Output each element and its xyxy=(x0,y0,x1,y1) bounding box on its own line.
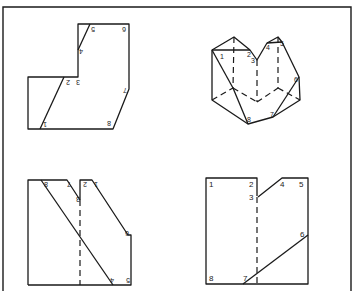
vertex-label: 8 xyxy=(44,181,48,188)
panel-top-left-net: 1 2 3 4 5 6 7 8 xyxy=(28,24,129,129)
panel-bottom-left-net: 8 7 3 2 1 6 4 5 xyxy=(28,180,131,285)
vertex-label: 1 xyxy=(94,181,98,188)
vertex-label: 5 xyxy=(126,277,130,284)
vertex-label: 8 xyxy=(247,116,251,123)
vertex-label: 7 xyxy=(123,87,127,94)
vertex-label: 4 xyxy=(79,48,83,55)
vertex-label: 7 xyxy=(67,181,71,188)
vertex-label: 6 xyxy=(300,230,305,239)
vertex-label: 6 xyxy=(125,230,129,237)
vertex-label: 4 xyxy=(280,180,285,189)
vertex-label: 6 xyxy=(122,26,126,33)
vertex-label: 8 xyxy=(107,120,111,127)
vertex-label: 1 xyxy=(220,53,224,60)
vertex-label: 2 xyxy=(249,180,254,189)
vertex-label: 1 xyxy=(209,180,214,189)
vertex-label: 3 xyxy=(251,57,255,64)
figure-frame xyxy=(3,7,351,291)
vertex-label: 5 xyxy=(299,180,304,189)
panel-bottom-right-net: 1 2 3 4 5 6 7 8 xyxy=(206,178,308,284)
vertex-label: 3 xyxy=(249,193,254,202)
vertex-label: 7 xyxy=(270,111,274,118)
vertex-label: 4 xyxy=(266,44,270,51)
vertex-label: 3 xyxy=(76,196,80,203)
panel-top-right-polyhedron: 1 2 3 4 5 6 7 8 xyxy=(212,37,300,124)
vertex-label: 8 xyxy=(209,274,214,283)
vertex-label: 7 xyxy=(243,274,248,283)
vertex-label: 5 xyxy=(91,26,95,33)
vertex-label: 3 xyxy=(76,79,80,86)
vertex-label: 5 xyxy=(280,40,284,47)
vertex-label: 4 xyxy=(110,277,114,284)
vertex-label: 2 xyxy=(66,79,70,86)
vertex-label: 6 xyxy=(294,76,298,83)
vertex-label: 2 xyxy=(83,181,87,188)
vertex-label: 1 xyxy=(43,121,47,128)
figure-canvas: 1 2 3 4 5 6 7 8 1 2 3 4 5 6 7 8 xyxy=(0,0,353,291)
